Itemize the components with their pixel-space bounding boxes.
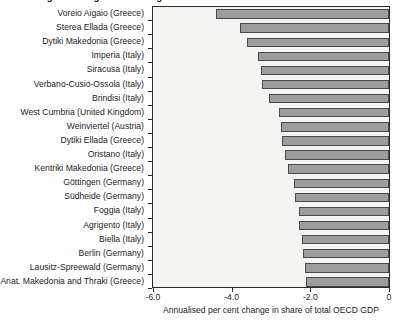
x-axis-tick-label: -4.0 <box>224 292 239 302</box>
category-axis-labels: Voreio Aigaio (Greece)Sterea Ellada (Gre… <box>0 6 148 288</box>
bar <box>299 221 389 230</box>
bars-layer <box>153 7 389 287</box>
category-label: Weinviertel (Austria) <box>67 119 144 133</box>
category-label: Anat. Makedonia and Thraki (Greece) <box>0 274 144 288</box>
y-axis-tick <box>148 274 152 275</box>
bar <box>258 52 389 61</box>
y-axis-tick <box>148 91 152 92</box>
y-axis-tick <box>148 119 152 120</box>
bar <box>262 80 389 89</box>
y-axis-tick <box>148 260 152 261</box>
category-label: Agrigento (Italy) <box>83 218 144 232</box>
bar <box>261 66 389 75</box>
y-axis-tick <box>148 48 152 49</box>
bar <box>305 263 389 272</box>
category-label: Lausitz-Spreewald (Germany) <box>30 260 144 274</box>
category-label: Brindisi (Italy) <box>92 91 144 105</box>
bar <box>299 207 389 216</box>
chart-title: Figure 5. Regions with largest declines … <box>38 0 324 2</box>
category-label: Südheide (Germany) <box>64 189 144 203</box>
bar <box>303 249 389 258</box>
bar <box>269 94 389 103</box>
y-axis-tick <box>148 62 152 63</box>
category-label: Berlin (Germany) <box>79 246 144 260</box>
bar <box>240 23 389 32</box>
bar <box>247 38 389 47</box>
x-axis-title: Annualised per cent change in share of t… <box>163 305 379 315</box>
y-axis-tick <box>148 203 152 204</box>
x-axis-tick-label: -6.0 <box>146 292 161 302</box>
category-label: Dytiki Makedonia (Greece) <box>42 34 144 48</box>
category-label: Dytiki Ellada (Greece) <box>60 133 144 147</box>
category-label: Imperia (Italy) <box>91 48 144 62</box>
category-label: Foggia (Italy) <box>94 203 144 217</box>
bar <box>294 179 389 188</box>
y-axis-tick <box>148 232 152 233</box>
category-label: Oristano (Italy) <box>88 147 144 161</box>
y-axis-tick <box>148 288 152 289</box>
y-axis-tick <box>148 246 152 247</box>
bar <box>279 108 389 117</box>
y-axis-tick <box>148 77 152 78</box>
category-label: Siracusa (Italy) <box>87 62 144 76</box>
y-axis-tick <box>148 161 152 162</box>
bar <box>285 150 389 159</box>
y-axis-tick <box>148 189 152 190</box>
y-axis-tick <box>148 175 152 176</box>
bar <box>288 164 389 173</box>
bar <box>282 136 389 145</box>
y-axis-tick <box>148 218 152 219</box>
x-axis-tick-label: 0 <box>387 292 392 302</box>
bar <box>306 277 389 286</box>
bar <box>281 122 389 131</box>
bar <box>216 9 389 18</box>
plot-area <box>152 6 390 288</box>
category-label: Voreio Aigaio (Greece) <box>58 6 144 20</box>
bar <box>302 235 389 244</box>
y-axis-tick <box>148 34 152 35</box>
category-label: Biella (Italy) <box>99 232 144 246</box>
category-label: Göttingen (Germany) <box>63 175 144 189</box>
bar <box>295 193 389 202</box>
category-label: Kentriki Makedonia (Greece) <box>35 161 144 175</box>
category-label: West Cumbria (United Kingdom) <box>20 105 144 119</box>
y-axis-tick <box>148 133 152 134</box>
category-label: Sterea Ellada (Greece) <box>56 20 144 34</box>
bar-chart: Figure 5. Regions with largest declines … <box>0 0 397 324</box>
y-axis-tick <box>148 20 152 21</box>
y-axis-tick <box>148 147 152 148</box>
y-axis-tick <box>148 105 152 106</box>
x-axis-tick-label: -2.0 <box>303 292 318 302</box>
category-label: Verbano-Cusio-Ossola (Italy) <box>34 77 144 91</box>
